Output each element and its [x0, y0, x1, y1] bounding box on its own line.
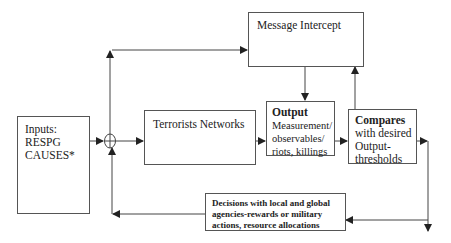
decisions-box: Decisions with local and global agencies… — [205, 193, 346, 231]
compares-line2: Output- — [355, 140, 416, 153]
inputs-label: Inputs: — [25, 123, 89, 136]
output-box: Output Measurement/ observables/ riots, … — [266, 101, 335, 156]
output-line1: Measurement/ — [272, 119, 334, 132]
inputs-causes: CAUSES* — [25, 149, 89, 162]
terrorists-networks-box: Terrorists Networks — [144, 110, 256, 165]
terrorists-networks-label: Terrorists Networks — [153, 118, 255, 131]
decisions-line2: agencies-rewards or military — [212, 209, 345, 220]
inputs-respg: RESPG — [25, 136, 89, 149]
decisions-line1: Decisions with local and global — [212, 198, 345, 209]
decisions-line3: actions, resource allocations — [212, 220, 345, 231]
output-line3: riots, killings — [272, 145, 334, 158]
inputs-box: Inputs: RESPG CAUSES* — [17, 116, 90, 214]
message-intercept-box: Message Intercept — [248, 12, 364, 67]
output-title: Output — [272, 106, 334, 119]
compares-title: Compares — [355, 114, 416, 127]
compares-line1: with desired — [355, 127, 416, 140]
compares-box: Compares with desired Output- thresholds — [348, 109, 417, 164]
message-intercept-label: Message Intercept — [257, 19, 363, 32]
compares-line3: thresholds — [355, 153, 416, 166]
output-line2: observables/ — [272, 132, 334, 145]
